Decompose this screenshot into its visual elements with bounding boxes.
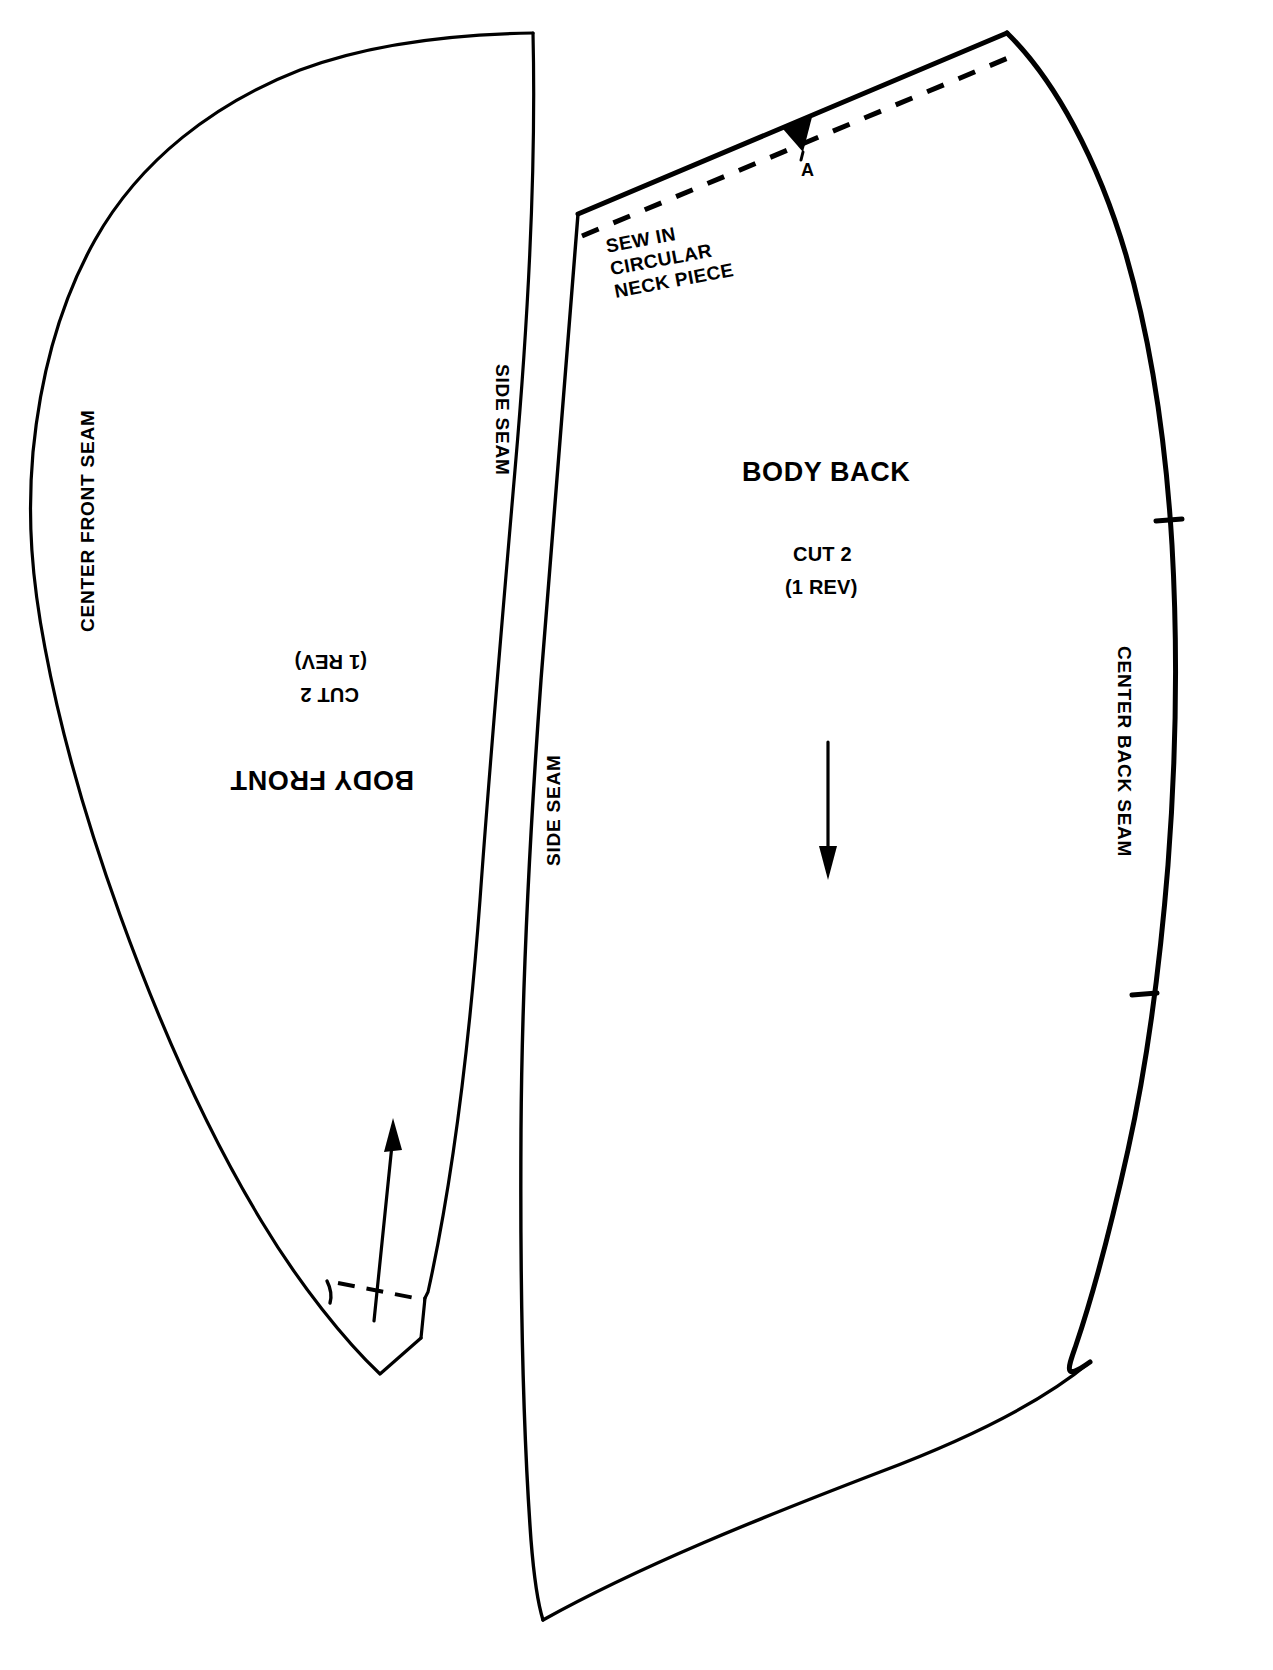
body-front-side-seam-line [425,33,534,1298]
notch-center-back-upper [1156,519,1182,521]
dart-leg [801,152,803,160]
body-back-shoulder-line [578,33,1007,214]
piece-cut-label-body-back: CUT 2 [793,542,852,566]
body-back-hem-edge [543,1362,1090,1620]
body-front-outline [30,33,533,1374]
neck-stitch-dashed-line [582,58,1008,236]
seam-label-side-seam-lower: SIDE SEAM [542,754,565,866]
seam-label-center-front: CENTER FRONT SEAM [76,409,99,632]
piece-cut-label-body-front: CUT 2 [300,683,359,707]
seam-label-side-seam-upper: SIDE SEAM [491,364,514,476]
pattern-sheet: BODY BACK CUT 2 (1 REV) BODY FRONT CUT 2… [0,0,1273,1670]
body-front-hem-edge [421,1298,425,1338]
piece-title-body-back: BODY BACK [742,456,910,489]
body-front-hem-fold-tick [327,1281,331,1303]
notch-center-back-lower [1132,993,1157,995]
grainline-arrow-back [819,742,837,880]
piece-rev-label-body-back: (1 REV) [785,575,858,599]
body-front-hem-fold-dashed [338,1283,425,1300]
piece-rev-label-body-front: (1 REV) [294,650,367,674]
notch-label-a: A [801,160,814,182]
body-back-side-seam-line [521,214,578,1620]
piece-title-body-front: BODY FRONT [230,763,414,796]
seam-label-center-back: CENTER BACK SEAM [1113,646,1136,857]
grainline-arrow-front [374,1118,402,1321]
body-back-center-back-seam-line [1007,33,1175,1372]
